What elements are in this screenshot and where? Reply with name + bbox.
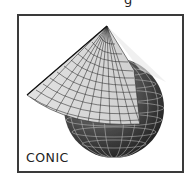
- projection-label: CONIC: [26, 150, 69, 165]
- cone: [27, 26, 140, 124]
